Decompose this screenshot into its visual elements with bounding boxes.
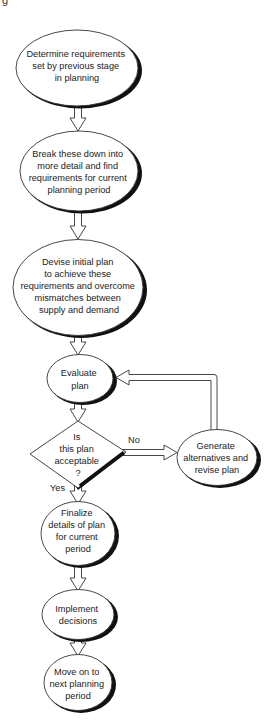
node-text-line: planning period xyxy=(48,185,111,195)
node-determine-requirements: Determine requirements set by previous s… xyxy=(16,30,142,109)
node-text-line: Move on to xyxy=(54,667,99,677)
node-text-line: Implement xyxy=(55,604,98,614)
node-text-line: Determine requirements xyxy=(26,49,125,59)
node-text-line: Finalize xyxy=(61,508,93,518)
node-text-line: Evaluate xyxy=(61,368,97,378)
node-text-line: period xyxy=(65,691,91,701)
node-text-line: alternatives and xyxy=(183,453,248,463)
arrow-breakdown-to-devise xyxy=(70,210,86,239)
arrow-devise-to-evaluate xyxy=(70,335,86,355)
node-text-line: supply and demand xyxy=(39,305,119,315)
node-implement-decisions: Implement decisions xyxy=(42,590,118,643)
arrow-generate-to-evaluate-loop xyxy=(116,370,217,432)
node-move-on-next-period: Move on to next planning period xyxy=(44,655,116,714)
node-text-line: requirements and overcome xyxy=(21,281,135,291)
node-generate-alternatives: Generate alternatives and revise plan xyxy=(177,430,261,489)
node-text-line: for current xyxy=(56,532,98,542)
node-decision-plan-acceptable: Is this plan acceptable ? xyxy=(30,421,126,490)
node-text-line: decisions xyxy=(59,616,98,626)
node-evaluate-plan: Evaluate plan xyxy=(47,355,117,406)
node-text-line: this plan xyxy=(60,444,94,454)
node-break-down-requirements: Break these down into more detail and fi… xyxy=(20,131,142,214)
node-text-line: Devise initial plan xyxy=(42,257,114,267)
node-text-line: Is xyxy=(73,432,81,442)
node-text-line: next planning xyxy=(49,679,104,689)
node-text-line: revise plan xyxy=(195,465,239,475)
node-text-line: in planning xyxy=(55,73,99,83)
node-text-line: Break these down into xyxy=(32,149,123,159)
edge-label-yes: Yes xyxy=(50,483,65,493)
arrow-decision-no-to-generate xyxy=(122,445,177,460)
node-text-line: requirements for current xyxy=(29,173,127,183)
arrow-determine-to-breakdown xyxy=(70,106,86,131)
node-text-line: to achieve these xyxy=(44,269,111,279)
node-text-line: set by previous stage xyxy=(32,61,119,71)
node-text-line: ? xyxy=(75,468,80,478)
node-text-line: acceptable xyxy=(54,456,98,466)
node-text-line: plan xyxy=(71,381,88,391)
node-devise-initial-plan: Devise initial plan to achieve these req… xyxy=(13,240,147,339)
arrow-evaluate-to-decision xyxy=(70,402,86,422)
node-text-line: Generate xyxy=(197,441,235,451)
node-text-line: details of plan xyxy=(48,520,105,530)
node-text-line: period xyxy=(65,544,91,554)
node-text-line: more detail and find xyxy=(37,161,118,171)
node-finalize-details: Finalize details of plan for current per… xyxy=(41,502,119,569)
node-text-line: mismatches between xyxy=(35,293,121,303)
edge-label-no: No xyxy=(128,435,140,445)
